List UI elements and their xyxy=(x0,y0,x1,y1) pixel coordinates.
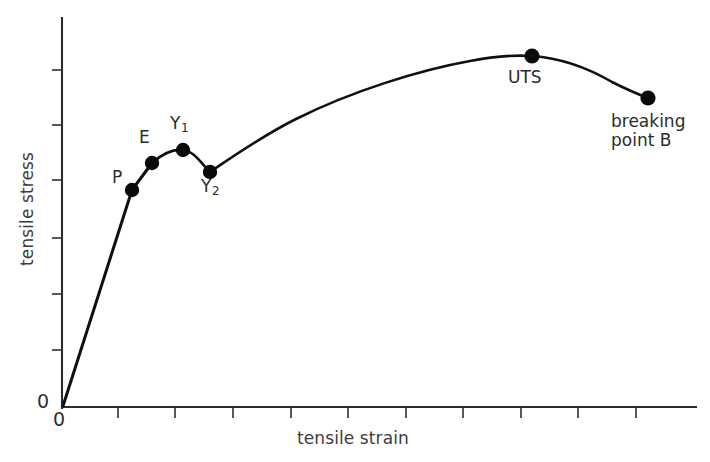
stress-strain-plot xyxy=(0,0,710,462)
x-axis-ticks xyxy=(118,407,636,418)
label-point-y2: Y2 xyxy=(201,177,219,196)
marker-point-uts xyxy=(524,48,539,63)
y-axis-title: tensile stress xyxy=(17,149,37,269)
marker-point-e xyxy=(145,156,159,170)
label-point-y1: Y1 xyxy=(170,114,188,133)
origin-label-x: 0 xyxy=(53,410,65,429)
label-point-y2-subscript: 2 xyxy=(212,184,220,198)
marker-point-y1 xyxy=(176,143,190,157)
marker-point-p xyxy=(125,183,139,197)
curve-elastic-region xyxy=(63,163,152,406)
label-point-p: P xyxy=(112,168,122,187)
x-axis-title: tensile strain xyxy=(297,428,409,448)
label-point-y1-base: Y xyxy=(170,113,180,133)
origin-label-y: 0 xyxy=(37,392,49,411)
label-point-y2-base: Y xyxy=(201,176,211,196)
label-point-uts: UTS xyxy=(508,68,542,87)
label-breaking-line1: breaking xyxy=(611,112,685,131)
label-point-y1-subscript: 1 xyxy=(181,121,189,135)
y-axis-ticks xyxy=(52,70,62,350)
label-point-e: E xyxy=(139,128,150,147)
marker-point-breaking xyxy=(640,90,655,105)
label-point-breaking: breaking point B xyxy=(611,112,685,150)
curve-plastic-region xyxy=(152,56,648,172)
stress-strain-figure: tensile stress tensile strain 0 0 P E Y1… xyxy=(0,0,710,462)
label-breaking-line2: point B xyxy=(611,131,685,150)
